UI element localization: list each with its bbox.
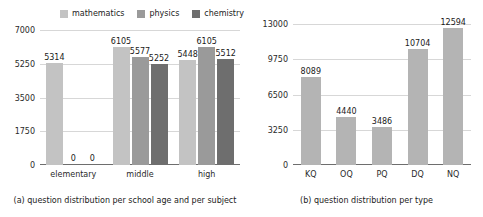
x-axis-tick-label: elementary [50, 170, 96, 179]
legend-label-mathematics: mathematics [72, 9, 124, 18]
legend-swatch-chemistry [192, 10, 200, 18]
x-axis-tick-label: middle [126, 170, 153, 179]
x-axis-tick-label: DQ [411, 170, 423, 179]
bar-value-label: 4440 [336, 107, 356, 116]
bar-DQ[interactable]: 10704 [408, 49, 428, 165]
gridline [40, 30, 240, 31]
bar-value-label: 6105 [196, 37, 216, 46]
bar-value-label: 5314 [44, 53, 64, 62]
bar-value-label: 0 [71, 154, 76, 163]
bar-middle-mathematics[interactable]: 6105 [113, 47, 130, 165]
y-axis-tick-label: 3250 [268, 125, 288, 134]
x-axis-tick-label: KQ [305, 170, 317, 179]
legend-panel-a: mathematicsphysicschemistry [60, 9, 244, 18]
chart-panel-a: mathematicsphysicschemistry 017503500525… [0, 0, 250, 217]
legend-swatch-physics [137, 10, 145, 18]
bar-high-mathematics[interactable]: 5448 [179, 60, 196, 165]
x-axis-tick-label: high [198, 170, 215, 179]
bar-value-label: 8089 [301, 67, 321, 76]
bar-high-chemistry[interactable]: 5512 [217, 59, 234, 165]
x-axis-tick-label: PQ [376, 170, 387, 179]
y-axis-tick-label: 1750 [15, 127, 35, 136]
bar-KQ[interactable]: 8089 [301, 77, 321, 165]
legend-label-chemistry: chemistry [204, 9, 244, 18]
chart-panel-b: 0325065009750130008089KQ4440OQ3486PQ1070… [250, 0, 483, 217]
plot-area-a: 01750350052507000531400elementary6105557… [40, 30, 240, 165]
caption-panel-a: (a) question distribution per school age… [0, 196, 250, 205]
legend-item-chemistry[interactable]: chemistry [192, 9, 244, 18]
plot-area-b: 0325065009750130008089KQ4440OQ3486PQ1070… [293, 24, 471, 165]
bar-value-label: 5448 [177, 50, 197, 59]
bar-elementary-mathematics[interactable]: 5314 [46, 63, 63, 165]
bar-PQ[interactable]: 3486 [372, 127, 392, 165]
bar-value-label: 5512 [215, 49, 235, 58]
y-axis-tick-label: 0 [30, 161, 35, 170]
y-axis-tick-label: 0 [283, 161, 288, 170]
bar-value-label: 5252 [149, 54, 169, 63]
bar-OQ[interactable]: 4440 [336, 117, 356, 165]
bar-NQ[interactable]: 12594 [443, 28, 463, 165]
y-axis-tick-label: 7000 [15, 26, 35, 35]
bar-high-physics[interactable]: 6105 [198, 47, 215, 165]
x-axis-tick-label: NQ [447, 170, 459, 179]
legend-label-physics: physics [149, 9, 179, 18]
y-axis-tick-label: 13000 [263, 20, 288, 29]
figure-container: mathematicsphysicschemistry 017503500525… [0, 0, 483, 217]
bar-value-label: 0 [90, 154, 95, 163]
legend-item-mathematics[interactable]: mathematics [60, 9, 124, 18]
caption-panel-b: (b) question distribution per type [250, 196, 483, 205]
y-axis-tick-label: 5250 [15, 59, 35, 68]
bar-middle-chemistry[interactable]: 5252 [151, 64, 168, 165]
bar-value-label: 5577 [130, 47, 150, 56]
bar-value-label: 3486 [372, 117, 392, 126]
legend-swatch-mathematics [60, 10, 68, 18]
legend-item-physics[interactable]: physics [137, 9, 179, 18]
bar-middle-physics[interactable]: 5577 [132, 57, 149, 165]
x-axis-tick-label: OQ [340, 170, 353, 179]
bar-value-label: 10704 [405, 39, 430, 48]
bar-value-label: 6105 [111, 37, 131, 46]
y-axis-tick-label: 3500 [15, 93, 35, 102]
y-axis-tick-label: 9750 [268, 55, 288, 64]
bar-value-label: 12594 [440, 18, 465, 27]
y-axis-tick-label: 6500 [268, 90, 288, 99]
